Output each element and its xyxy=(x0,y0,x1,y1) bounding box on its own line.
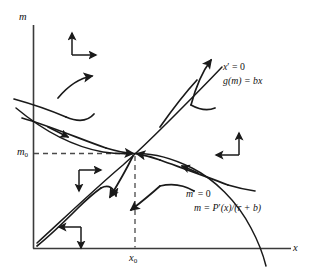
trajectory-upper-left-a xyxy=(14,99,66,117)
direction-cross-top-left xyxy=(72,33,96,55)
m-nullcline-curve xyxy=(16,108,266,266)
y-tick-label-m0: m0 xyxy=(17,146,28,159)
m-nullcline-rhs: (x)/(r + b) xyxy=(221,202,261,213)
m-nullcline-lhs: m = P xyxy=(194,202,219,213)
trajectory-arrow-hump-down-left xyxy=(131,186,160,210)
trajectory-upper-right-tail xyxy=(191,105,215,110)
x-axis-label: x xyxy=(293,242,298,253)
phase-plane-figure: m x m0 x0 x′ = 0 g(m) = bx m′ = 0 m = P′… xyxy=(0,0,313,278)
phase-diagram-canvas xyxy=(0,0,313,278)
m-nullcline-label-line1: m′ = 0 xyxy=(186,189,211,199)
trajectory-stable-arm-right xyxy=(160,160,228,185)
x-nullcline-eq: = 0 xyxy=(230,61,245,72)
direction-cross-bottom-left xyxy=(59,227,81,248)
x-tick-label-x0: x0 xyxy=(129,252,137,265)
trajectory-arrow-upper-left-up xyxy=(58,76,92,98)
trajectory-stable-arm-left xyxy=(22,118,106,148)
y-axis-label: m xyxy=(19,11,27,22)
x-nullcline-label-line2: g(m) = bx xyxy=(223,76,262,86)
trajectory-upper-left-a-tail xyxy=(66,114,94,120)
direction-cross-right-middle xyxy=(216,133,239,155)
x0-subscript: 0 xyxy=(134,257,138,265)
m0-subscript: 0 xyxy=(25,151,29,159)
trajectory-right-tail xyxy=(228,185,255,191)
trajectory-lower-left-hook xyxy=(101,186,116,196)
trajectory-lower-left-rising xyxy=(37,188,101,246)
m-nullcline-label-line2: m = P′(x)/(r + b) xyxy=(194,203,261,213)
x-nullcline-label-line1: x′ = 0 xyxy=(223,62,245,72)
m0-base: m xyxy=(17,146,25,157)
m-nullcline-eq: = 0 xyxy=(195,188,210,199)
